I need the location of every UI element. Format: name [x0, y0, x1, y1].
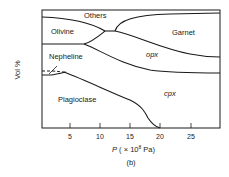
nepheline-leader-line	[49, 66, 57, 74]
x-axis-label-mid: ( × 10	[117, 145, 138, 154]
x-axis-label-unit: Pa)	[141, 145, 155, 154]
x-tick-label: 20	[156, 133, 164, 140]
region-label-others: Others	[84, 11, 107, 20]
y-axis-label: Vol %	[13, 60, 22, 80]
x-tick-label: 15	[126, 133, 134, 140]
x-axis-label: P ( × 108 Pa)	[112, 144, 156, 154]
region-label-plagioclase: Plagioclase	[58, 95, 96, 104]
region-label-nepheline: Nepheline	[49, 52, 83, 61]
nepheline-lower-boundary	[42, 72, 66, 75]
panel-label: (b)	[126, 158, 136, 167]
region-label-garnet: Garnet	[172, 28, 196, 37]
x-tick-label: 25	[187, 133, 195, 140]
garnet-top-boundary	[115, 13, 220, 31]
region-label-opx: opx	[146, 50, 158, 59]
region-label-cpx: cpx	[164, 89, 176, 98]
opx-garnet-boundary	[115, 31, 220, 57]
region-label-olivine: Olivine	[51, 27, 74, 36]
phase-diagram: 5 10 15 20 25 Others Olivine Garnet Neph…	[0, 0, 229, 177]
x-tick-label: 10	[96, 133, 104, 140]
nepheline-dashed-boundary	[42, 71, 64, 72]
x-tick-label: 5	[68, 133, 72, 140]
